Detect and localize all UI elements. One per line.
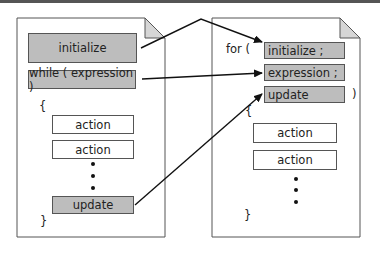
action-label: action xyxy=(277,126,312,140)
action-label: action xyxy=(277,153,312,167)
right-expression-box: expression ; xyxy=(264,64,345,81)
right-action-box-1: action xyxy=(253,123,337,143)
right-expression-label: expression ; xyxy=(268,66,338,80)
right-update-box: update xyxy=(264,86,345,103)
page-fold-icon xyxy=(340,18,360,38)
left-update-label: update xyxy=(73,198,114,212)
right-update-label: update xyxy=(268,88,309,102)
right-action-box-2: action xyxy=(253,150,337,170)
left-action-box-2: action xyxy=(52,140,134,159)
action-label: action xyxy=(75,118,110,132)
page-fold-icon xyxy=(145,18,165,38)
right-open-brace: { xyxy=(245,106,252,118)
for-keyword: for ( xyxy=(226,44,250,56)
action-label: action xyxy=(75,143,110,157)
right-close-paren: ) xyxy=(352,89,357,101)
right-close-brace: } xyxy=(244,210,251,222)
right-initialize-label: initialize ; xyxy=(268,44,323,58)
left-initialize-label: initialize xyxy=(59,41,107,55)
left-while-label: while ( expression ) xyxy=(29,66,135,94)
right-initialize-box: initialize ; xyxy=(264,42,345,59)
left-initialize-box: initialize xyxy=(28,33,137,63)
left-while-box: while ( expression ) xyxy=(28,70,136,89)
left-close-brace: } xyxy=(40,216,47,228)
left-action-box-1: action xyxy=(52,115,134,134)
left-open-brace: { xyxy=(39,101,46,113)
left-update-box: update xyxy=(52,196,134,214)
